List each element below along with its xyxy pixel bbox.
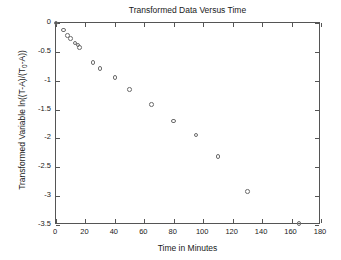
- y-axis-tick: [315, 225, 319, 226]
- y-axis-tick-label: -0.5: [38, 47, 51, 55]
- data-point: [297, 221, 302, 226]
- data-point: [98, 66, 103, 71]
- y-axis-tick-label: -3.5: [38, 220, 51, 228]
- data-point: [194, 133, 199, 138]
- data-point: [77, 45, 82, 50]
- x-axis-tick: [321, 219, 322, 223]
- y-axis-tick-label: -2.5: [38, 162, 51, 170]
- x-axis-tick-label: 80: [158, 228, 188, 236]
- data-point: [245, 189, 250, 194]
- data-point: [171, 119, 176, 124]
- x-axis-tick-label: 0: [40, 228, 70, 236]
- x-axis-label: Time in Minutes: [55, 243, 320, 254]
- x-axis-tick-label: 140: [246, 228, 276, 236]
- y-axis-tick: [56, 196, 60, 197]
- y-axis-tick: [315, 52, 319, 53]
- data-point: [68, 36, 73, 41]
- x-axis-tick: [203, 23, 204, 27]
- x-axis-tick: [321, 23, 322, 27]
- data-point: [54, 21, 59, 26]
- x-axis-tick: [56, 219, 57, 223]
- x-axis-tick-labels: 020406080100120140160180: [0, 228, 341, 240]
- data-point: [149, 102, 154, 107]
- x-axis-tick: [174, 23, 175, 27]
- chart-title: Transformed Data Versus Time: [55, 5, 320, 16]
- y-axis-tick: [315, 81, 319, 82]
- x-axis-tick: [174, 219, 175, 223]
- x-axis-tick-label: 20: [69, 228, 99, 236]
- y-axis-tick-label: -3: [44, 191, 51, 199]
- y-axis-tick-label: -2: [44, 133, 51, 141]
- x-axis-tick: [85, 23, 86, 27]
- x-axis-tick: [115, 23, 116, 27]
- y-axis-tick: [56, 52, 60, 53]
- y-axis-tick-label: 0: [47, 18, 51, 26]
- y-axis-tick: [315, 138, 319, 139]
- x-axis-tick: [144, 23, 145, 27]
- chart-figure: Transformed Data Versus Time 0-0.5-1-1.5…: [0, 0, 341, 260]
- x-axis-tick: [262, 219, 263, 223]
- x-axis-tick: [292, 219, 293, 223]
- y-axis-tick: [315, 196, 319, 197]
- x-axis-tick-label: 160: [276, 228, 306, 236]
- y-axis-tick: [56, 138, 60, 139]
- data-point: [91, 60, 96, 65]
- x-axis-tick: [203, 219, 204, 223]
- x-axis-tick: [144, 219, 145, 223]
- x-axis-tick: [233, 219, 234, 223]
- x-axis-tick-label: 180: [305, 228, 335, 236]
- x-axis-tick-label: 40: [99, 228, 129, 236]
- y-axis-label: Transformed Variable ln((T-A)/(T0-A)): [17, 50, 28, 190]
- y-axis-tick-label: -1: [44, 76, 51, 84]
- x-axis-tick-label: 60: [128, 228, 158, 236]
- data-point: [61, 28, 66, 33]
- x-axis-tick-label: 100: [187, 228, 217, 236]
- data-point: [216, 154, 221, 159]
- x-axis-tick: [262, 23, 263, 27]
- x-axis-tick: [292, 23, 293, 27]
- y-axis-tick: [315, 110, 319, 111]
- y-axis-tick: [56, 167, 60, 168]
- x-axis-tick: [233, 23, 234, 27]
- y-axis-tick: [315, 23, 319, 24]
- y-axis-tick: [56, 110, 60, 111]
- plot-area: [55, 22, 320, 224]
- x-axis-tick: [115, 219, 116, 223]
- y-axis-tick: [315, 167, 319, 168]
- y-axis-tick: [56, 81, 60, 82]
- x-axis-tick-label: 120: [217, 228, 247, 236]
- y-axis-tick: [56, 225, 60, 226]
- y-axis-tick-label: -1.5: [38, 105, 51, 113]
- y-axis-label-wrapper: Transformed Variable ln((T-A)/(T0-A)): [15, 20, 29, 220]
- data-point: [113, 75, 118, 80]
- data-point: [127, 87, 132, 92]
- x-axis-tick: [85, 219, 86, 223]
